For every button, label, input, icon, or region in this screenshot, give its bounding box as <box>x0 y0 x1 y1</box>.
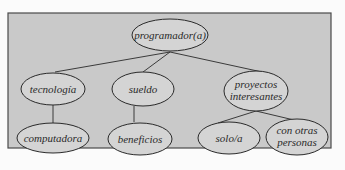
label-con-otras-line2: personas <box>276 136 317 148</box>
label-computadora: computadora <box>24 132 83 144</box>
concept-map-canvas: programador(a) tecnología sueldo proyect… <box>0 0 345 170</box>
concept-map: programador(a) tecnología sueldo proyect… <box>0 0 345 170</box>
label-solo: solo/a <box>216 132 243 144</box>
label-beneficios: beneficios <box>118 133 163 145</box>
label-proyectos-line1: proyectos <box>234 78 277 90</box>
label-sueldo: sueldo <box>129 83 158 95</box>
label-proyectos-line2: interesantes <box>230 90 283 102</box>
label-root: programador(a) <box>133 29 206 42</box>
label-tecnologia: tecnología <box>30 83 77 95</box>
label-con-otras-line1: con otras <box>276 124 317 136</box>
